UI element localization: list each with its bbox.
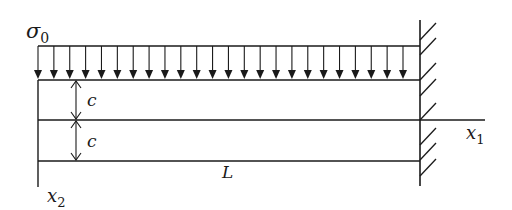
half-depth-label-bottom: c (87, 131, 97, 151)
x1-axis-label: x1 (466, 122, 484, 147)
load-label: σ0 (26, 19, 49, 46)
wall-hatching (420, 23, 436, 176)
dimension-c-top (71, 81, 81, 119)
dimension-c-bottom (71, 121, 81, 160)
x2-axis-label: x2 (47, 185, 65, 210)
half-depth-label-top: c (87, 90, 97, 110)
distributed-load-arrows (34, 46, 407, 79)
cantilever-diagram: σ0 c c L x1 x2 (0, 0, 512, 210)
length-label: L (221, 162, 233, 182)
